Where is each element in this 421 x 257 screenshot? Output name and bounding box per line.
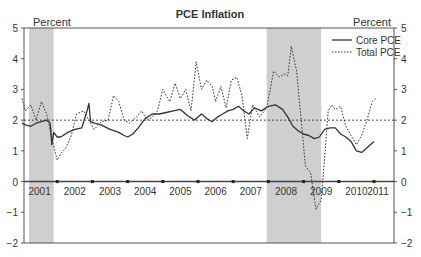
y-tick-label-right: 3: [401, 84, 407, 95]
x-tick-label: 2002: [64, 186, 87, 197]
y-tick-label-left: 0: [12, 177, 18, 188]
y-tick-label-right: −1: [401, 207, 413, 218]
y-tick-label-left: 1: [12, 146, 18, 157]
x-tick-label: 2011: [367, 186, 389, 197]
y-axis-unit-left: Percent: [33, 16, 71, 28]
y-tick-label-right: 1: [401, 146, 407, 157]
year-marker: [56, 180, 59, 183]
year-marker: [373, 180, 376, 183]
x-tick-label: 2007: [240, 186, 263, 197]
chart-title: PCE Inflation: [176, 8, 245, 20]
y-tick-label-right: 4: [401, 54, 407, 65]
recession-band-2: [267, 28, 322, 243]
chart-canvas: −2−2−1−100112233445520012002200320042005…: [0, 0, 421, 257]
x-tick-label: 2006: [204, 186, 227, 197]
x-tick-label: 2010: [345, 186, 368, 197]
axes: −2−2−1−100112233445520012002200320042005…: [7, 23, 413, 249]
year-marker: [232, 180, 235, 183]
y-tick-label-left: −1: [7, 207, 19, 218]
legend: Core PCE Total PCE: [332, 35, 401, 58]
x-tick-label: 2005: [169, 186, 192, 197]
recession-band-1: [29, 28, 54, 243]
legend-total-label: Total PCE: [356, 47, 401, 58]
y-tick-label-left: 4: [12, 54, 18, 65]
plot-frame: [24, 28, 394, 243]
y-tick-label-left: 3: [12, 84, 18, 95]
x-tick-label: 2004: [134, 186, 157, 197]
year-marker: [302, 180, 305, 183]
pce-inflation-chart: −2−2−1−100112233445520012002200320042005…: [0, 0, 421, 257]
x-tick-label: 2008: [275, 186, 298, 197]
year-marker: [126, 180, 129, 183]
x-tick-label: 2009: [310, 186, 333, 197]
y-tick-label-left: −2: [7, 238, 19, 249]
y-tick-label-right: 5: [401, 23, 407, 34]
year-marker: [161, 180, 164, 183]
year-marker: [91, 180, 94, 183]
reference-lines: [24, 120, 394, 183]
y-tick-label-right: 2: [401, 115, 407, 126]
y-tick-label-left: 5: [12, 23, 18, 34]
y-axis-unit-right: Percent: [353, 16, 391, 28]
y-tick-label-left: 2: [12, 115, 18, 126]
x-tick-label: 2003: [99, 186, 122, 197]
year-marker: [197, 180, 200, 183]
recession-shading: [29, 28, 321, 243]
x-tick-label: 2001: [28, 186, 51, 197]
year-marker: [337, 180, 340, 183]
legend-core-label: Core PCE: [356, 35, 401, 46]
y-tick-label-right: 0: [401, 177, 407, 188]
y-tick-label-right: −2: [401, 238, 413, 249]
year-marker: [267, 180, 270, 183]
